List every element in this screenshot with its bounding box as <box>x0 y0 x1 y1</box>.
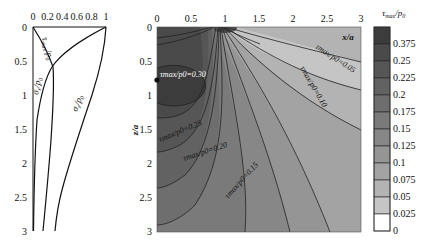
colorbar-swatch <box>374 61 390 78</box>
figure: 0 0.2 0.4 0.6 0.8 1 0 0.5 1 1.5 2 2.5 3 … <box>0 0 427 249</box>
colorbar-swatch <box>374 180 390 197</box>
colorbar-swatch <box>374 78 390 95</box>
svg-text:τmax/p0: τmax/p0 <box>39 36 56 61</box>
x-axis-label: x/a <box>341 32 354 42</box>
tick-label: 2 <box>147 158 152 169</box>
colorbar-level-label: 0.05 <box>393 191 411 202</box>
sigma-z-curve <box>55 27 106 231</box>
contour-label-030: τmax/p0=0.30 <box>160 70 206 79</box>
colorbar-level-label: 0.025 <box>393 208 416 219</box>
tick-label: 0.5 <box>15 56 28 67</box>
tick-label: 0.8 <box>85 11 98 22</box>
right-y-tick-labels: 0 0.5 1 1.5 2 2.5 3 <box>140 22 153 237</box>
colorbar-swatch <box>374 95 390 112</box>
colorbar-swatch <box>374 112 390 129</box>
tau-curve-label: τmax/p0 <box>39 36 56 61</box>
left-y-tick-labels: 0 0.5 1 1.5 2 2.5 3 <box>15 22 28 237</box>
tick-label: 0 <box>147 22 152 33</box>
colorbar-swatch <box>374 146 390 163</box>
colorbar-level-label: 0.075 <box>393 174 416 185</box>
colorbar-level-label: 0.375 <box>393 38 416 49</box>
colorbar-level-label: 0.125 <box>393 140 416 151</box>
colorbar-swatch <box>374 197 390 214</box>
point-marker <box>154 77 159 82</box>
colorbar-swatch <box>374 44 390 61</box>
sigma-z-curve-label: σz/p0 <box>69 93 85 113</box>
colorbar-level-label: 0.25 <box>393 55 411 66</box>
tick-label: 2 <box>22 158 27 169</box>
profile-plot: 0 0.2 0.4 0.6 0.8 1 0 0.5 1 1.5 2 2.5 3 … <box>15 11 109 237</box>
colorbar-level-label: 0.2 <box>393 89 406 100</box>
tick-label: 3 <box>22 226 27 237</box>
tick-label: 0.6 <box>71 11 84 22</box>
tick-label: 0 <box>22 22 27 33</box>
colorbar-swatch <box>374 27 390 44</box>
tick-label: 1 <box>22 90 27 101</box>
tick-label: 0 <box>155 13 160 24</box>
right-x-tick-labels: 0 0.5 1 1.5 2 2.5 3 <box>155 13 364 24</box>
tick-label: 1 <box>104 11 109 22</box>
tick-label: 1 <box>223 13 228 24</box>
colorbar-level-label: 0.1 <box>393 157 406 168</box>
tick-label: 1.5 <box>140 124 153 135</box>
tick-label: 2.5 <box>15 192 28 203</box>
tick-label: 2.5 <box>140 192 153 203</box>
colorbar-level-label: 0.15 <box>393 123 411 134</box>
colorbar-swatch <box>374 163 390 180</box>
svg-text:σz/p0: σz/p0 <box>69 93 85 113</box>
colorbar-swatches <box>374 27 390 231</box>
colorbar: τmax/p0 0.3750.250.2250.20.1750.150.1250… <box>374 8 416 236</box>
contour-plot: 0 0.5 1 1.5 2 2.5 3 0 0.5 1 1.5 2 2.5 3 … <box>130 13 364 237</box>
tick-label: 3 <box>359 13 364 24</box>
tick-label: 0.4 <box>56 11 69 22</box>
left-x-tick-labels: 0 0.2 0.4 0.6 0.8 1 <box>31 11 109 22</box>
tick-label: 0.5 <box>140 56 153 67</box>
tick-label: 1.5 <box>15 124 28 135</box>
colorbar-labels: 0.3750.250.2250.20.1750.150.1250.10.0750… <box>393 38 416 236</box>
colorbar-swatch <box>374 129 390 146</box>
colorbar-swatch <box>374 214 390 231</box>
tick-label: 0.2 <box>41 11 54 22</box>
tick-label: 0 <box>31 11 36 22</box>
colorbar-level-label: 0 <box>393 225 398 236</box>
tick-label: 2.5 <box>321 13 334 24</box>
y-axis-label: z/a <box>130 124 140 136</box>
tick-label: 1.5 <box>253 13 266 24</box>
tick-label: 1 <box>147 90 152 101</box>
tick-label: 0.5 <box>185 13 198 24</box>
tick-label: 2 <box>291 13 296 24</box>
colorbar-level-label: 0.225 <box>393 72 416 83</box>
tick-label: 3 <box>147 226 152 237</box>
colorbar-title: τmax/p0 <box>382 8 405 19</box>
colorbar-level-label: 0.175 <box>393 106 416 117</box>
